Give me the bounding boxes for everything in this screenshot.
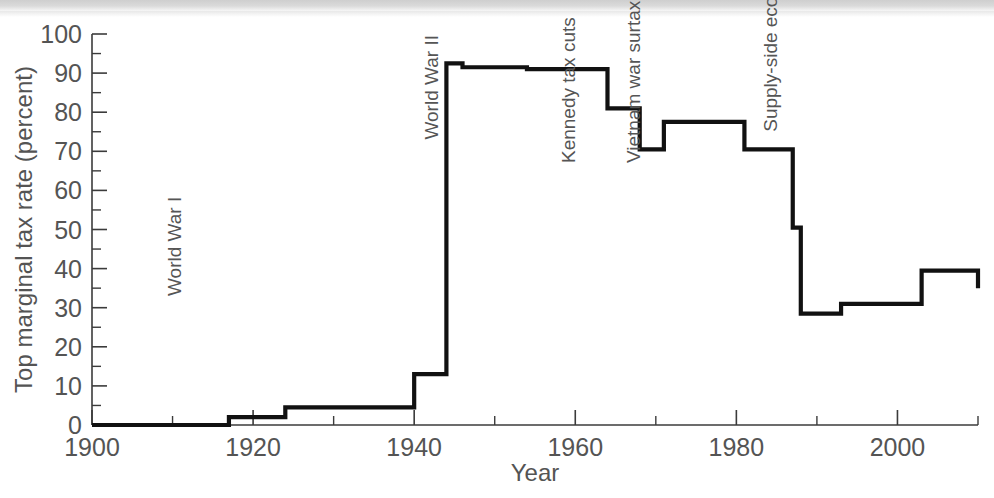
y-tick-label: 80	[54, 98, 82, 126]
x-tick-label: 1920	[225, 433, 281, 461]
y-tick-label: 10	[54, 372, 82, 400]
y-axis-ticks	[92, 34, 107, 425]
annotation-label: Supply-side economics	[760, 0, 781, 132]
y-tick-label: 100	[40, 20, 82, 48]
y-tick-label: 90	[54, 59, 82, 87]
x-axis-title: Year	[511, 459, 560, 486]
annotation-label: Kennedy tax cuts	[558, 17, 579, 163]
tax-rate-step-line	[92, 63, 978, 425]
y-tick-label: 40	[54, 255, 82, 283]
x-tick-label: 1900	[64, 433, 120, 461]
y-tick-label: 20	[54, 333, 82, 361]
y-tick-label: 70	[54, 137, 82, 165]
y-tick-label: 30	[54, 294, 82, 322]
x-axis-tick-labels: 190019201940196019802000	[64, 433, 925, 461]
annotation-label: World War I	[164, 197, 185, 296]
x-tick-label: 1980	[709, 433, 765, 461]
y-tick-label: 60	[54, 176, 82, 204]
tax-rate-chart: 0102030405060708090100 19001920194019601…	[0, 0, 994, 498]
y-axis-tick-labels: 0102030405060708090100	[40, 20, 82, 439]
y-tick-label: 50	[54, 216, 82, 244]
x-axis-ticks	[92, 410, 978, 425]
chart-svg: 0102030405060708090100 19001920194019601…	[0, 0, 994, 498]
x-tick-label: 2000	[870, 433, 926, 461]
annotation-label: Vietnam war surtax	[623, 0, 644, 163]
annotation-label: World War II	[421, 35, 442, 140]
x-tick-label: 1940	[386, 433, 442, 461]
chart-page: 0102030405060708090100 19001920194019601…	[0, 0, 994, 498]
chart-annotations: World War IWorld War IIKennedy tax cutsV…	[164, 0, 781, 296]
y-axis-title: Top marginal tax rate (percent)	[10, 66, 37, 393]
x-tick-label: 1960	[547, 433, 603, 461]
